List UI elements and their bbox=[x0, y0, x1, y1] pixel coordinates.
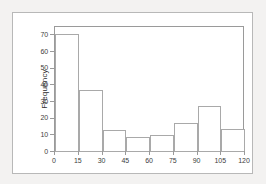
x-axis-tick-label: 120 bbox=[234, 157, 254, 164]
x-axis-tick-label: 60 bbox=[139, 157, 159, 164]
y-axis-tick-label: 40 bbox=[40, 81, 48, 88]
x-axis-tick-mark bbox=[244, 151, 245, 155]
x-axis-tick-label: 90 bbox=[187, 157, 207, 164]
histogram-bar bbox=[174, 123, 198, 152]
x-axis-tick-mark bbox=[78, 151, 79, 155]
plot-area bbox=[54, 26, 244, 151]
y-axis-tick-label: 20 bbox=[40, 114, 48, 121]
x-axis-tick-label: 45 bbox=[115, 157, 135, 164]
y-axis-tick-label: 50 bbox=[40, 64, 48, 71]
histogram-bar bbox=[221, 129, 245, 152]
x-axis-tick-mark bbox=[173, 151, 174, 155]
x-axis-tick-label: 30 bbox=[92, 157, 112, 164]
x-axis-tick-label: 15 bbox=[68, 157, 88, 164]
x-axis-tick-label: 0 bbox=[44, 157, 64, 164]
x-axis-tick-mark bbox=[197, 151, 198, 155]
chart-card-frame: Frequency 010203040506070 01530456075901… bbox=[12, 12, 253, 174]
histogram-bar bbox=[126, 137, 150, 152]
histogram-bar bbox=[198, 106, 222, 152]
histogram-chart: Frequency 010203040506070 01530456075901… bbox=[13, 13, 254, 175]
y-axis-tick-label: 0 bbox=[44, 148, 48, 155]
x-axis-tick-mark bbox=[149, 151, 150, 155]
y-axis-tick-label: 10 bbox=[40, 131, 48, 138]
x-axis-tick-mark bbox=[125, 151, 126, 155]
x-axis-tick-mark bbox=[54, 151, 55, 155]
x-axis-tick-mark bbox=[220, 151, 221, 155]
x-axis-tick-label: 105 bbox=[210, 157, 230, 164]
histogram-bar bbox=[150, 135, 174, 152]
x-axis: 0153045607590105120 bbox=[54, 151, 245, 171]
x-axis-tick-mark bbox=[102, 151, 103, 155]
y-axis-tick-label: 60 bbox=[40, 48, 48, 55]
x-axis-tick-label: 75 bbox=[163, 157, 183, 164]
y-axis-tick-label: 30 bbox=[40, 98, 48, 105]
y-axis-tick-label: 70 bbox=[40, 31, 48, 38]
histogram-bar bbox=[55, 34, 79, 152]
histogram-bar bbox=[103, 130, 127, 152]
screenshot-root: Frequency 010203040506070 01530456075901… bbox=[0, 0, 266, 184]
y-axis-title-container: Frequency bbox=[21, 26, 33, 151]
y-axis: 010203040506070 bbox=[33, 26, 54, 151]
histogram-bar bbox=[79, 90, 103, 152]
